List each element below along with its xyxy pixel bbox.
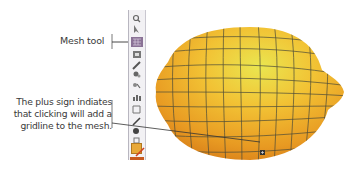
- mesh-point-cursor-plus-icon: [260, 150, 265, 155]
- plus-sign-leader-line: [112, 118, 262, 148]
- color-mode-buttons[interactable]: [130, 157, 144, 160]
- symbol-sprayer-tool-icon[interactable]: [133, 83, 140, 88]
- slice-tool-icon[interactable]: [133, 106, 140, 113]
- direct-selection-tool-icon[interactable]: [134, 25, 139, 33]
- caption-line: The plus sign indiates: [0, 96, 112, 108]
- gradient-tool-icon[interactable]: [133, 51, 141, 58]
- mesh-tool-icon[interactable]: [131, 37, 143, 47]
- column-graph-tool-icon[interactable]: [133, 95, 141, 101]
- caption-line: that clicking will add a: [0, 108, 112, 120]
- mesh-tool-label: Mesh tool: [60, 35, 104, 46]
- eyedropper-tool-icon[interactable]: [133, 62, 140, 69]
- zoom-tool-icon[interactable]: [134, 16, 141, 23]
- blend-tool-icon[interactable]: [134, 72, 141, 78]
- plus-sign-caption: The plus sign indiates that clicking wil…: [0, 96, 112, 132]
- stroke-color-swatch[interactable]: [135, 147, 145, 157]
- caption-line: gridline to the mesh.: [0, 120, 112, 132]
